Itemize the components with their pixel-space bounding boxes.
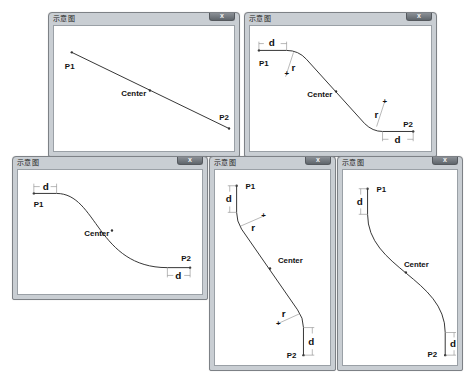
d-start-label: d bbox=[357, 196, 363, 207]
d-end-label: d bbox=[394, 134, 400, 145]
d-end-label: d bbox=[450, 338, 456, 349]
p1-label: P1 bbox=[245, 182, 255, 191]
center-label: Center bbox=[121, 89, 146, 98]
d-end-label: d bbox=[308, 336, 314, 347]
window-title: 示意图 bbox=[214, 158, 236, 167]
diagram-window-scurve-horizontal: 示意图 x d d P1 Center P2 bbox=[12, 156, 208, 300]
p1-label: P1 bbox=[65, 62, 75, 71]
p1-label: P1 bbox=[259, 59, 269, 68]
p1-label: P1 bbox=[376, 185, 386, 194]
p2-label: P2 bbox=[181, 254, 191, 263]
svg-text:+: + bbox=[285, 69, 290, 78]
diagram-canvas: d d P1 Center P2 bbox=[342, 169, 458, 366]
title-bar[interactable]: 示意图 x bbox=[338, 157, 462, 168]
close-icon: x bbox=[306, 155, 330, 165]
p1-label: P1 bbox=[34, 200, 44, 209]
straight-line-diagram: P1 Center P2 bbox=[54, 26, 234, 151]
svg-text:+: + bbox=[383, 97, 388, 106]
s-curve-diagram: d d P1 Center P2 bbox=[18, 170, 202, 294]
d-end-label: d bbox=[175, 270, 181, 281]
arc-fillet-diagram: d d + r + r P1 Center P2 bbox=[250, 26, 431, 151]
svg-text:+: + bbox=[261, 211, 266, 220]
diagram-canvas: d d + r + r P1 Center P2 bbox=[249, 25, 432, 152]
r-start-label: r bbox=[251, 222, 255, 233]
close-button[interactable]: x bbox=[432, 157, 458, 165]
r-end-label: r bbox=[282, 308, 286, 319]
d-start-label: d bbox=[226, 193, 232, 204]
diagram-canvas: d d P1 Center P2 bbox=[17, 169, 203, 295]
title-bar[interactable]: 示意图 x bbox=[13, 157, 207, 168]
close-button[interactable]: x bbox=[406, 13, 432, 21]
d-start-label: d bbox=[269, 38, 275, 49]
close-icon: x bbox=[433, 155, 457, 165]
diagram-canvas: d d + r + r P1 Center P2 bbox=[214, 169, 331, 366]
svg-text:+: + bbox=[276, 319, 281, 328]
s-curve-vertical-diagram: d d P1 Center P2 bbox=[343, 170, 457, 365]
d-start-label: d bbox=[43, 181, 49, 192]
close-icon: x bbox=[407, 11, 431, 21]
close-icon: x bbox=[178, 155, 202, 165]
close-button[interactable]: x bbox=[209, 13, 235, 21]
title-bar[interactable]: 示意图 x bbox=[210, 157, 335, 168]
p2-label: P2 bbox=[403, 120, 413, 129]
window-title: 示意图 bbox=[53, 14, 75, 23]
p2-label: P2 bbox=[219, 113, 229, 122]
diagram-window-straight: 示意图 x P1 Center P2 bbox=[48, 12, 240, 157]
diagram-window-arc-vertical: 示意图 x d d + r + r P1 Center P2 bbox=[209, 156, 336, 371]
center-label: Center bbox=[278, 256, 303, 265]
window-title: 示意图 bbox=[17, 158, 39, 167]
diagram-window-arc-horizontal: 示意图 x d d + r + r P1 Cent bbox=[244, 12, 437, 157]
window-title: 示意图 bbox=[249, 14, 271, 23]
p2-label: P2 bbox=[287, 351, 297, 360]
close-button[interactable]: x bbox=[177, 157, 203, 165]
window-title: 示意图 bbox=[342, 158, 364, 167]
diagram-canvas: P1 Center P2 bbox=[53, 25, 235, 152]
diagram-window-scurve-vertical: 示意图 x d d P1 Center P2 bbox=[337, 156, 463, 371]
center-label: Center bbox=[307, 90, 332, 99]
title-bar[interactable]: 示意图 x bbox=[49, 13, 239, 24]
arc-fillet-vertical-diagram: d d + r + r P1 Center P2 bbox=[215, 170, 330, 365]
close-button[interactable]: x bbox=[305, 157, 331, 165]
r-end-label: r bbox=[375, 109, 379, 120]
p2-label: P2 bbox=[428, 350, 438, 359]
close-icon: x bbox=[210, 11, 234, 21]
title-bar[interactable]: 示意图 x bbox=[245, 13, 436, 24]
center-label: Center bbox=[404, 260, 429, 269]
center-label: Center bbox=[84, 229, 109, 238]
r-start-label: r bbox=[292, 62, 296, 73]
